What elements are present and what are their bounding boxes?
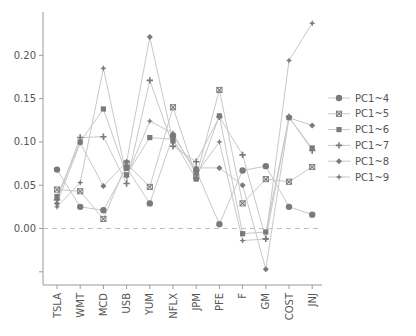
plus-marker-icon [239, 152, 245, 158]
y-tick-label: 0.05 [14, 180, 36, 191]
line-chart: 0.200.150.100.050.00 TSLAWMTMCDUSBYUMNFL… [0, 0, 416, 336]
square-marker-icon [194, 177, 199, 182]
legend-label: PC1~9 [355, 172, 389, 183]
legend-item: PC1~4 [328, 93, 389, 104]
x-tick-label: YUM [144, 293, 155, 316]
x-marker-icon [310, 164, 315, 169]
star-marker-icon [286, 57, 292, 63]
series-line-pc1-9 [57, 23, 312, 240]
x-marker-icon [147, 184, 152, 189]
axes [43, 12, 322, 285]
square-marker-icon [240, 231, 245, 236]
x-tick-label: MCD [98, 293, 109, 317]
x-tick-label: TSLA [52, 293, 63, 319]
series-lines [57, 23, 312, 269]
legend-item: PC1~9 [328, 172, 389, 183]
square-marker-icon [147, 135, 152, 140]
x-tick-label: NFLX [168, 293, 179, 319]
legend-label: PC1~5 [355, 108, 389, 119]
circle-marker-icon [239, 167, 245, 173]
circle-marker-icon [286, 204, 292, 210]
x-tick-label: F [237, 293, 248, 299]
x-tick-label: USB [121, 293, 132, 314]
star-marker-icon [309, 20, 315, 26]
x-tick-label: PFE [214, 293, 225, 311]
legend-item: PC1~6 [328, 124, 389, 135]
diamond-marker-icon [147, 34, 153, 40]
square-marker-icon [101, 106, 106, 111]
square-legend-icon [336, 127, 341, 132]
star-marker-icon [239, 237, 245, 243]
legend-item: PC1~8 [328, 156, 389, 167]
legend-item: PC1~7 [328, 140, 389, 151]
plus-marker-icon [193, 159, 199, 165]
legend-item: PC1~5 [328, 108, 389, 119]
legend: PC1~4PC1~5PC1~6PC1~7PC1~8PC1~9 [328, 93, 389, 183]
diamond-legend-icon [336, 158, 342, 164]
star-legend-icon [336, 174, 342, 180]
circle-legend-icon [336, 95, 342, 101]
x-tick-label: WMT [75, 292, 86, 318]
square-marker-icon [263, 229, 268, 234]
star-marker-icon [100, 65, 106, 71]
y-axis-ticks: 0.200.150.100.050.00 [14, 50, 43, 272]
x-tick-label: JNJ [307, 293, 318, 307]
diamond-marker-icon [309, 122, 315, 128]
y-tick-label: 0.20 [14, 50, 36, 61]
series-markers [54, 20, 316, 272]
plus-legend-icon [336, 142, 342, 148]
plus-marker-icon [100, 134, 106, 140]
plus-marker-icon [147, 77, 153, 83]
circle-marker-icon [216, 221, 222, 227]
diamond-marker-icon [263, 266, 269, 272]
star-marker-icon [147, 118, 153, 124]
circle-marker-icon [54, 166, 60, 172]
y-tick-label: 0.10 [14, 136, 36, 147]
circle-marker-icon [100, 207, 106, 213]
x-tick-label: GM [260, 293, 271, 309]
y-tick-label: 0.00 [14, 223, 36, 234]
circle-marker-icon [77, 204, 83, 210]
y-tick-label: 0.15 [14, 93, 36, 104]
x-tick-label: JPM [191, 293, 202, 312]
x-tick-label: COST [284, 292, 295, 320]
x-marker-icon [101, 216, 106, 221]
circle-marker-icon [309, 211, 315, 217]
legend-label: PC1~4 [355, 93, 389, 104]
plus-marker-icon [123, 180, 129, 186]
circle-marker-icon [263, 163, 269, 169]
circle-marker-icon [147, 200, 153, 206]
x-axis-ticks: TSLAWMTMCDUSBYUMNFLXJPMPFEFGMCOSTJNJ [52, 285, 318, 320]
legend-label: PC1~8 [355, 156, 389, 167]
star-marker-icon [263, 236, 269, 242]
legend-label: PC1~7 [355, 140, 389, 151]
legend-label: PC1~6 [355, 124, 389, 135]
